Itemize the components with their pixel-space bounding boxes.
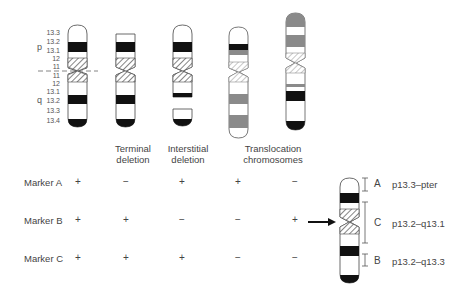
column-label-line: deletion <box>155 154 221 165</box>
region-bracket-c <box>362 202 368 243</box>
mapped-chromosome <box>340 178 359 283</box>
marker-b-sign: + <box>120 214 132 225</box>
band-label: 12 <box>38 80 60 88</box>
band-label: 12 <box>38 55 60 63</box>
marker-c-sign: + <box>72 252 84 263</box>
translocation-chromosome-1 <box>229 27 248 138</box>
marker-c-sign: − <box>232 252 244 263</box>
marker-a-sign: + <box>232 176 244 187</box>
marker-a-label: Marker A <box>24 177 62 188</box>
band-label: 11 <box>38 72 60 80</box>
region-b-letter: B <box>374 255 381 266</box>
marker-a-sign: − <box>289 176 301 187</box>
region-bracket-b <box>362 254 368 266</box>
marker-c-label: Marker C <box>24 253 63 264</box>
q-arm-label: q <box>37 95 42 105</box>
marker-b-sign: − <box>176 214 188 225</box>
marker-b-sign: + <box>289 214 301 225</box>
marker-c-sign: + <box>176 252 188 263</box>
column-label-translocation: Translocation chromosomes <box>228 143 318 165</box>
marker-a-sign: + <box>72 176 84 187</box>
column-label-line: Interstitial <box>155 143 221 154</box>
translocation-chromosome-2 <box>286 13 305 130</box>
marker-a-sign: + <box>176 176 188 187</box>
normal-chromosome <box>68 25 87 127</box>
region-bracket-a <box>362 178 368 191</box>
region-a-range: p13.3–pter <box>392 179 437 190</box>
band-label: 11 <box>38 63 60 71</box>
p-arm-label: p <box>37 42 42 52</box>
marker-c-sign: + <box>120 252 132 263</box>
region-c-range: p13.2–q13.1 <box>392 218 445 229</box>
marker-b-label: Marker B <box>24 215 63 226</box>
band-label: 13.4 <box>38 117 60 125</box>
arrow-icon <box>308 218 336 226</box>
band-label: 13.3 <box>38 29 60 37</box>
marker-b-sign: − <box>232 214 244 225</box>
column-label-line: Translocation <box>228 143 318 154</box>
column-label-interstitial-deletion: Interstitial deletion <box>155 143 221 165</box>
marker-a-sign: − <box>120 176 132 187</box>
marker-b-sign: + <box>72 214 84 225</box>
band-label: 13.3 <box>38 107 60 115</box>
region-c-letter: C <box>374 217 381 228</box>
region-b-range: p13.2–q13.3 <box>392 256 445 267</box>
terminal-deletion-chromosome <box>116 34 135 127</box>
interstitial-deletion-chromosome <box>173 25 192 126</box>
region-a-letter: A <box>374 178 381 189</box>
marker-c-sign: − <box>289 252 301 263</box>
column-label-line: chromosomes <box>228 154 318 165</box>
